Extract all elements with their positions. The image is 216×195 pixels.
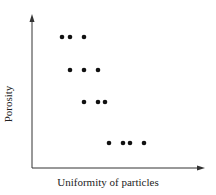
data-point (82, 100, 87, 105)
data-point (107, 141, 112, 146)
data-point (121, 141, 126, 146)
y-axis-arrow-icon (30, 14, 35, 22)
x-axis-arrow-icon (197, 166, 205, 171)
scatter-plot (0, 0, 216, 195)
data-point (82, 35, 87, 40)
data-point (68, 35, 73, 40)
data-point (96, 68, 101, 73)
x-axis-label: Uniformity of particles (0, 176, 216, 188)
data-point (96, 100, 101, 105)
data-point (68, 68, 73, 73)
y-axis-label: Porosity (2, 74, 14, 134)
data-point (103, 100, 108, 105)
data-points (60, 35, 147, 146)
data-point (60, 35, 65, 40)
data-point (142, 141, 147, 146)
data-point (128, 141, 133, 146)
data-point (82, 68, 87, 73)
